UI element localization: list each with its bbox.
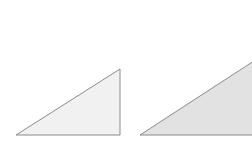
small-right-triangle: [16, 69, 120, 135]
large-right-triangle: [140, 57, 252, 135]
diagram-canvas: [0, 0, 252, 145]
